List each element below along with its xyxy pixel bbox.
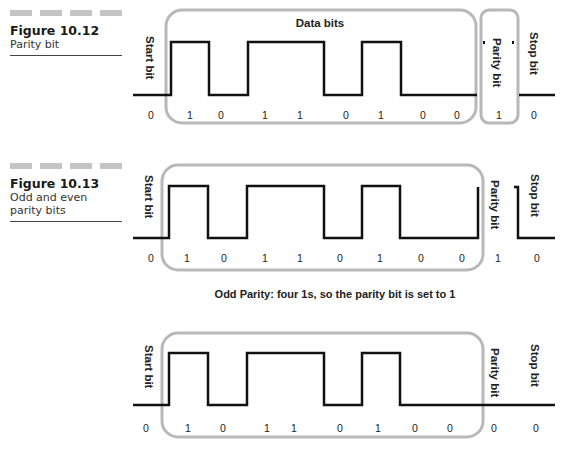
stop-bit-label: Stop bit	[529, 344, 541, 387]
data-bits-frame	[162, 333, 483, 437]
bit-value: 1	[291, 422, 297, 434]
diagram-even-parity: Start bit Parity bit Stop bit 0 1 0 1 1 …	[133, 333, 555, 437]
bit-value: 0	[534, 252, 540, 264]
bit-value: 1	[262, 252, 268, 264]
data-bits-title: Data bits	[296, 17, 345, 29]
bit-value: 1	[187, 109, 193, 121]
bit-value: 1	[184, 252, 190, 264]
bit-value: 0	[459, 252, 465, 264]
bit-value: 1	[297, 109, 303, 121]
parity-dash-right	[512, 41, 514, 44]
bit-value: 1	[378, 109, 384, 121]
bit-value: 1	[262, 109, 268, 121]
start-bit-label: Start bit	[143, 345, 155, 389]
bit-value: 0	[533, 422, 539, 434]
bit-value: 1	[185, 422, 191, 434]
bit-value: 1	[264, 422, 270, 434]
diagram-parity-bit: Data bits Start bit Parity bit Stop bit …	[133, 10, 555, 123]
data-bits-frame	[162, 165, 483, 270]
bit-value: 0	[447, 422, 453, 434]
parity-bit-label: Parity bit	[489, 348, 501, 397]
bit-value: 0	[220, 422, 226, 434]
signal-waveform	[133, 42, 477, 95]
parity-bit-label: Parity bit	[489, 180, 501, 229]
bit-value: 0	[420, 109, 426, 121]
bit-value: 1	[377, 252, 383, 264]
bit-value: 0	[491, 422, 497, 434]
stop-bit-label: Stop bit	[528, 32, 540, 75]
bit-value: 0	[337, 252, 343, 264]
bit-value: 0	[412, 422, 418, 434]
bit-value: 0	[418, 252, 424, 264]
bit-value: 0	[343, 109, 349, 121]
diagram-odd-parity: Start bit Parity bit Stop bit 0 1 0 1 1 …	[133, 165, 555, 300]
start-bit-label: Start bit	[143, 175, 155, 219]
bit-value: 1	[495, 252, 501, 264]
bit-value: 1	[297, 252, 303, 264]
start-bit-label: Start bit	[144, 36, 156, 80]
bit-value: 0	[454, 109, 460, 121]
bit-value: 0	[143, 422, 149, 434]
bit-value: 0	[148, 109, 154, 121]
bit-value: 0	[148, 252, 154, 264]
bit-value: 0	[218, 109, 224, 121]
bit-value: 1	[375, 422, 381, 434]
stop-bit-label: Stop bit	[529, 174, 541, 217]
signal-waveform	[133, 186, 478, 238]
parity-dash-left	[483, 41, 485, 44]
bit-value: 0	[221, 252, 227, 264]
parity-diagrams: Data bits Start bit Parity bit Stop bit …	[0, 0, 562, 460]
bit-value: 0	[337, 422, 343, 434]
parity-bit-label: Parity bit	[491, 38, 503, 87]
bit-values: 0 1 0 1 1 0 1 0 0 1 0	[148, 109, 537, 121]
odd-parity-caption: Odd Parity: four 1s, so the parity bit i…	[215, 288, 456, 300]
bit-value: 0	[531, 109, 537, 121]
bit-value: 1	[496, 109, 502, 121]
